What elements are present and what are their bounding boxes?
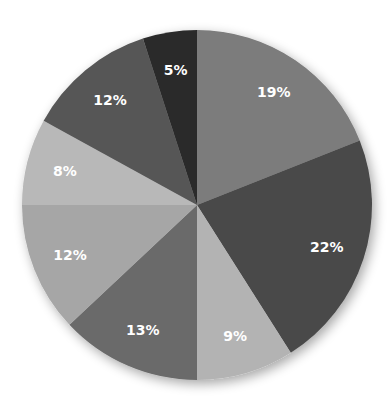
slice-percentage-label: 12%	[93, 92, 127, 108]
slice-percentage-label: 9%	[223, 328, 247, 344]
slice-percentage-label: 19%	[257, 84, 291, 100]
pie-chart	[0, 0, 391, 406]
slice-percentage-label: 8%	[53, 163, 77, 179]
slice-percentage-label: 13%	[126, 322, 160, 338]
pie-slices	[22, 30, 372, 380]
slice-percentage-label: 5%	[164, 62, 188, 78]
slice-percentage-label: 12%	[53, 247, 87, 263]
slice-percentage-label: 22%	[310, 239, 344, 255]
